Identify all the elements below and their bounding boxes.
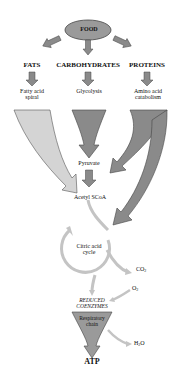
food-to-carbs-arrow [83, 40, 93, 55]
h2o-arrow [108, 330, 128, 344]
pyruvate-label: Pyruvate [74, 160, 104, 166]
co2-label: CO2 [136, 266, 146, 273]
reduced-arrowhead [89, 290, 95, 296]
proteins-label: PROTEINS [124, 62, 170, 69]
citric-acid-cycle-label: Citric acid cycle [72, 243, 106, 256]
carbs-down-arrow [82, 72, 94, 86]
co2-arrowhead [125, 268, 132, 275]
fatty-line-2: spiral [12, 94, 52, 100]
fatty-acid-spiral-label: Fatty acid spiral [12, 88, 52, 101]
glycolysis-funnel [72, 110, 106, 158]
fats-down-arrow [26, 72, 38, 86]
reduced-coenzymes-label: REDUCED COENZYMES [68, 298, 116, 310]
atp-label: ATP [80, 358, 104, 366]
respiratory-chain-label: Respiratory chain [76, 316, 108, 328]
o2-label: O2 [132, 285, 138, 292]
amino-acid-catabolism-label: Amino acid catabolism [126, 88, 170, 101]
proteins-down-arrow [141, 72, 153, 86]
acetyl-scoa-label: Acetyl SCoA [70, 194, 110, 200]
resp-line-2: chain [76, 322, 108, 328]
food-to-proteins-arrow [112, 33, 133, 50]
carbohydrates-label: CARBOHYDRATES [54, 62, 122, 69]
fats-label: FATS [14, 62, 50, 69]
pyruvate-to-acetyl-arrow [82, 170, 96, 187]
food-label: FOOD [78, 26, 100, 32]
h2o-arrowhead [126, 341, 132, 347]
co2-sub: 2 [144, 268, 146, 273]
h2o-o: O [140, 340, 144, 346]
amino-line-2: catabolism [126, 94, 170, 100]
glycolysis-label: Glycolysis [70, 88, 108, 94]
fatty-acid-arrow [14, 110, 77, 193]
food-to-fats-arrow [41, 33, 62, 50]
o2-sub: 2 [136, 287, 138, 292]
h2o-label: H2O [134, 340, 145, 347]
cycle-line-2: cycle [72, 249, 106, 255]
reduced-line-2: COENZYMES [68, 304, 116, 310]
